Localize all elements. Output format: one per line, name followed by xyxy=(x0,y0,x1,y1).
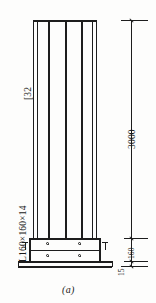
stiffener-mark-right-horizontal xyxy=(102,242,108,243)
dimension-value-160: 160 xyxy=(128,247,136,259)
dimension-tick-bottom xyxy=(129,264,133,268)
anchor-bolt xyxy=(46,254,49,257)
column-outline-left-outer xyxy=(33,20,34,238)
anchor-bolt xyxy=(78,242,81,245)
drawing-sheet: [32 L160×160×14 3000 160 15 (a) xyxy=(0,0,156,303)
extension-line-plate-top xyxy=(124,261,148,262)
dimension-value-15: 15 xyxy=(118,268,126,276)
base-gusset-top-edge xyxy=(29,238,101,240)
column-outline-left-inner xyxy=(37,20,38,238)
column-outline-right-outer xyxy=(96,20,97,238)
channel-section-label: [32 xyxy=(24,87,34,100)
base-plate-bottom xyxy=(18,266,112,268)
column-web-line-2 xyxy=(65,21,67,238)
dimension-tick-plate xyxy=(129,259,133,263)
anchor-bolt xyxy=(46,242,49,245)
column-outline-right-inner xyxy=(92,20,93,238)
base-plate-top xyxy=(18,261,112,263)
dimension-value-3000: 3000 xyxy=(128,129,138,149)
column-web-line-1 xyxy=(48,21,50,238)
base-gusset-mid-line xyxy=(29,250,101,251)
figure-caption: (a) xyxy=(62,284,75,295)
dimension-tick-top xyxy=(129,18,133,22)
column-web-line-3 xyxy=(81,21,83,238)
extension-line-mid xyxy=(124,238,148,239)
anchor-bolt xyxy=(78,254,81,257)
base-plate-right-edge xyxy=(112,261,113,267)
extension-line-bottom xyxy=(121,266,148,267)
angle-section-label: L160×160×14 xyxy=(19,205,29,262)
stiffener-mark-right-vertical xyxy=(105,242,106,250)
dimension-tick-mid xyxy=(129,236,133,240)
extension-line-top xyxy=(121,20,148,21)
